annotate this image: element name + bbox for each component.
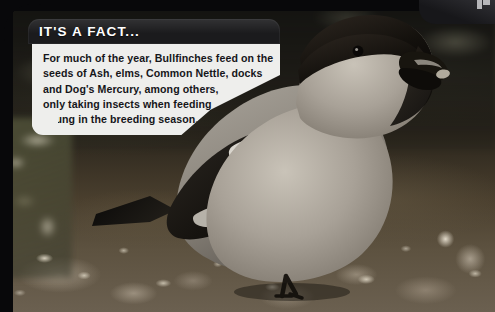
fact-line: only taking insects when feeding (43, 97, 270, 112)
fact-callout: IT'S A FACT... For much of the year, Bul… (28, 19, 280, 135)
fact-line: seeds of Ash, elms, Common Nettle, docks (43, 66, 270, 81)
fact-line: young in the breeding season. (43, 112, 270, 127)
fact-line: and Dog's Mercury, among others, (43, 82, 270, 97)
fact-callout-bottom-cap (32, 112, 58, 134)
fact-callout-text: For much of the year, Bullfinches feed o… (43, 51, 270, 127)
fact-line: For much of the year, Bullfinches feed o… (43, 51, 270, 66)
fact-callout-body: For much of the year, Bullfinches feed o… (32, 44, 280, 135)
fact-callout-header: IT'S A FACT... (28, 19, 280, 44)
fact-callout-title: IT'S A FACT... (39, 23, 140, 40)
corner-logo-mark-icon (477, 0, 490, 9)
frame-left-edge (0, 0, 13, 312)
fact-panel-page: IT'S A FACT... For much of the year, Bul… (0, 0, 495, 312)
